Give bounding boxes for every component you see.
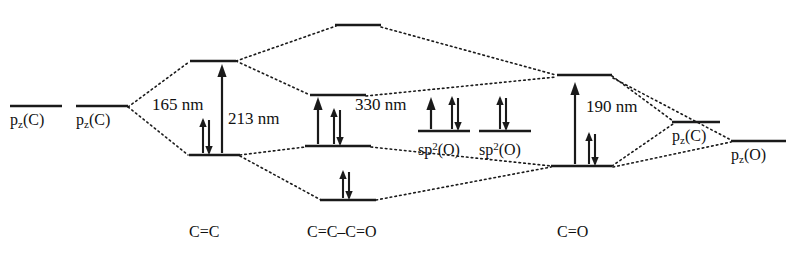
orbital-label-pz-c-right: pz(C): [672, 128, 706, 146]
transition-label-213nm: 213 nm: [228, 110, 279, 127]
molecule-label-co: C=O: [557, 224, 588, 240]
transition-arrow-165nm: [217, 64, 226, 153]
orbital-label-sp2-o-conjugated: sp2(O): [418, 141, 460, 158]
correlation-line-pzc-to-pi-cc: [128, 107, 188, 155]
correlation-line-top-to-pistar-co: [381, 27, 556, 75]
correlation-line-cc-to-pistar-conj: [236, 61, 310, 95]
orbital-label-sp2-o-co: sp2(O): [479, 141, 521, 158]
orbital-label-pz-c-left-2: pz(C): [76, 112, 110, 130]
electron-pair-pi-conjugated-upper: [330, 108, 343, 146]
electron-pair-n-sp2-o-conjugated: [448, 96, 461, 131]
correlation-line-pi-co-to-pzc: [612, 124, 673, 166]
correlation-line-cc-to-top: [236, 26, 336, 61]
correlation-lines-group: [128, 26, 731, 200]
correlation-line-cc-to-pi-conj-upper: [240, 147, 305, 155]
electron-pair-pi-co: [585, 132, 598, 166]
correlation-line-cc-to-pi-conj-lower: [240, 156, 321, 200]
transition-arrow-190nm: [570, 82, 579, 164]
correlation-line-pi-conj-upper-to-pi-co: [371, 147, 551, 166]
orbital-label-pz-c-left-1: pz(C): [10, 112, 44, 130]
transition-label-190nm: 190 nm: [586, 98, 637, 115]
electron-pair-pi-conjugated-lower: [339, 170, 352, 200]
molecule-label-cc: C=C: [189, 224, 219, 240]
correlation-line-pi-conj-lower-to-pi-co: [376, 167, 551, 200]
transition-label-165nm: 165 nm: [152, 96, 203, 113]
transition-label-330nm: 330 nm: [355, 96, 406, 113]
transition-arrow-330nm: [426, 97, 435, 129]
mo-energy-diagram: pz(C) pz(C) sp2(O) sp2(O) pz(C) pz(O) 16…: [0, 0, 798, 261]
orbital-label-pz-o-right: pz(O): [731, 147, 766, 165]
molecule-label-conjugated: C=C–C=O: [307, 224, 377, 240]
electron-pair-n-sp2-o-co: [496, 96, 509, 131]
transition-arrow-213nm: [313, 97, 322, 144]
correlation-line-pistar-conj-to-pistar-co: [366, 77, 556, 96]
electron-pair-pi-cc: [199, 118, 212, 155]
